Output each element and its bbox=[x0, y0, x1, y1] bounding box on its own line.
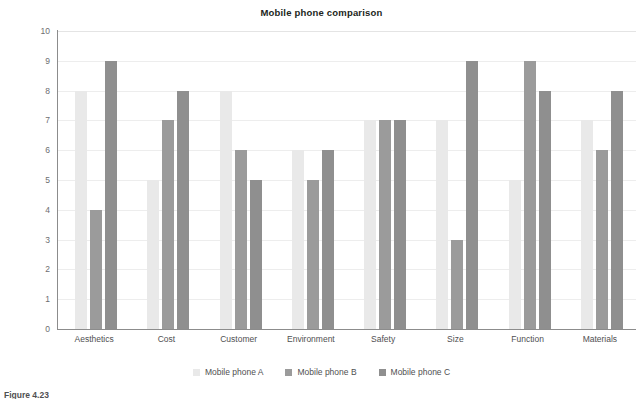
bar-safety-c bbox=[394, 120, 406, 329]
bar-aesthetics-c bbox=[105, 61, 117, 329]
legend-swatch-icon bbox=[379, 369, 386, 376]
y-axis-tick-label: 7 bbox=[6, 116, 50, 125]
x-axis-label-function: Function bbox=[492, 335, 564, 344]
bar-aesthetics-b bbox=[90, 210, 102, 329]
bar-customer-c bbox=[250, 180, 262, 329]
plot-area bbox=[58, 31, 636, 329]
legend-label: Mobile phone C bbox=[391, 368, 451, 377]
legend-label: Mobile phone B bbox=[297, 368, 356, 377]
x-axis-label-materials: Materials bbox=[564, 335, 636, 344]
y-axis-tick-label: 10 bbox=[6, 27, 50, 36]
bar-customer-a bbox=[220, 91, 232, 329]
bar-group bbox=[492, 31, 564, 329]
y-axis-tick-label: 3 bbox=[6, 236, 50, 245]
bar-size-a bbox=[436, 120, 448, 329]
legend-label: Mobile phone A bbox=[205, 368, 264, 377]
x-axis-label-aesthetics: Aesthetics bbox=[58, 335, 130, 344]
y-axis-tick-label: 9 bbox=[6, 57, 50, 66]
x-axis-label-environment: Environment bbox=[275, 335, 347, 344]
bar-function-c bbox=[539, 91, 551, 329]
gridline bbox=[58, 329, 636, 330]
y-axis-tick-label: 0 bbox=[6, 325, 50, 334]
bar-environment-c bbox=[322, 150, 334, 329]
bar-group bbox=[347, 31, 419, 329]
x-axis-label-cost: Cost bbox=[130, 335, 202, 344]
y-axis-tick-label: 2 bbox=[6, 265, 50, 274]
legend-item-b[interactable]: Mobile phone B bbox=[285, 368, 356, 377]
legend-swatch-icon bbox=[193, 369, 200, 376]
bar-group bbox=[275, 31, 347, 329]
bar-group bbox=[419, 31, 491, 329]
bar-materials-c bbox=[611, 91, 623, 329]
figure-caption: Figure 4.23 bbox=[4, 390, 49, 399]
x-axis-label-safety: Safety bbox=[347, 335, 419, 344]
y-axis-tick-label: 5 bbox=[6, 176, 50, 185]
bar-safety-b bbox=[379, 120, 391, 329]
bar-safety-a bbox=[364, 120, 376, 329]
bar-function-b bbox=[524, 61, 536, 329]
bar-group bbox=[130, 31, 202, 329]
bar-size-b bbox=[451, 240, 463, 329]
bar-group bbox=[58, 31, 130, 329]
bar-materials-b bbox=[596, 150, 608, 329]
bar-group bbox=[203, 31, 275, 329]
legend-item-a[interactable]: Mobile phone A bbox=[193, 368, 264, 377]
bar-cost-b bbox=[162, 120, 174, 329]
y-axis-tick-label: 4 bbox=[6, 206, 50, 215]
x-axis-label-size: Size bbox=[419, 335, 491, 344]
caption-label: Figure 4.23 bbox=[4, 390, 49, 399]
legend-swatch-icon bbox=[285, 369, 292, 376]
y-axis-tick-label: 6 bbox=[6, 146, 50, 155]
bar-aesthetics-a bbox=[75, 91, 87, 329]
legend-item-c[interactable]: Mobile phone C bbox=[379, 368, 451, 377]
y-axis-tick-label: 1 bbox=[6, 295, 50, 304]
figure-container: Mobile phone comparison 109876543210 Mob… bbox=[0, 0, 643, 399]
chart-legend: Mobile phone AMobile phone BMobile phone… bbox=[0, 368, 643, 377]
bar-cost-c bbox=[177, 91, 189, 329]
bar-size-c bbox=[466, 61, 478, 329]
bar-environment-b bbox=[307, 180, 319, 329]
bar-materials-a bbox=[581, 120, 593, 329]
y-axis-tick-label: 8 bbox=[6, 87, 50, 96]
x-axis-label-customer: Customer bbox=[203, 335, 275, 344]
bar-function-a bbox=[509, 180, 521, 329]
bar-cost-a bbox=[147, 180, 159, 329]
bar-customer-b bbox=[235, 150, 247, 329]
bar-group bbox=[564, 31, 636, 329]
bar-environment-a bbox=[292, 150, 304, 329]
